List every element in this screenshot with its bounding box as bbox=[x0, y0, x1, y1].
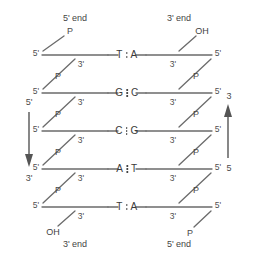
left-phosphate-2: P bbox=[55, 110, 61, 119]
left-phosphate-4: P bbox=[55, 186, 61, 195]
base-pair-5: TA bbox=[116, 202, 137, 212]
base-pair-3-hydrogen-bonds bbox=[126, 126, 128, 136]
base-pair-4-right-base: T bbox=[131, 164, 138, 174]
hydrogen-bond-dot bbox=[126, 92, 128, 94]
hydrogen-bond-dot bbox=[126, 130, 128, 132]
base-pair-3: CG bbox=[115, 126, 139, 136]
right-phosphate-2: P bbox=[193, 110, 199, 119]
hydrogen-bond-dot bbox=[126, 127, 128, 129]
base-pair-5-left-base: T bbox=[116, 202, 123, 212]
right-three-prime-2: 3' bbox=[170, 98, 176, 107]
base-pair-4-hydrogen-bonds bbox=[126, 164, 128, 174]
base-pair-4: AT bbox=[116, 164, 137, 174]
left-five-prime-4: 5' bbox=[33, 163, 39, 172]
left-phosphate-1: P bbox=[55, 72, 61, 81]
right-five-prime-2: 5' bbox=[215, 87, 221, 96]
left-three-prime-5: 3' bbox=[78, 212, 84, 221]
base-pair-4-left-base: A bbox=[116, 164, 123, 174]
right-three-prime-4: 3' bbox=[170, 174, 176, 183]
left-five-prime-3: 5' bbox=[33, 125, 39, 134]
right-arrow-top-label: 3 bbox=[226, 92, 231, 101]
left-five-prime-1: 5' bbox=[33, 49, 39, 58]
base-pair-1-right-base: A bbox=[131, 50, 138, 60]
left-three-prime-1: 3' bbox=[78, 60, 84, 69]
left-three-prime-2: 3' bbox=[78, 98, 84, 107]
end-label-top-left: 5' end bbox=[63, 14, 87, 23]
hydrogen-bond-dot bbox=[126, 165, 128, 167]
left-terminal-p-link bbox=[43, 36, 64, 51]
left-three-prime-4: 3' bbox=[78, 174, 84, 183]
end-label-bottom-right: 5' end bbox=[167, 240, 191, 249]
hydrogen-bond-dot bbox=[126, 52, 128, 54]
base-pair-2-right-base: C bbox=[131, 88, 139, 98]
base-pair-2: GC bbox=[115, 88, 139, 98]
hydrogen-bond-dot bbox=[126, 89, 128, 91]
right-three-prime-1: 3' bbox=[170, 60, 176, 69]
right-arrow-bottom-label: 5 bbox=[226, 164, 231, 173]
right-five-prime-4: 5' bbox=[215, 163, 221, 172]
left-terminal-phosphate: P bbox=[67, 27, 73, 36]
left-arrow-bottom-label: 3' bbox=[26, 174, 33, 183]
hydrogen-bond-dot bbox=[126, 56, 128, 58]
hydrogen-bond-dot bbox=[126, 204, 128, 206]
left-terminal-oh-link bbox=[58, 211, 75, 226]
left-phosphate-3: P bbox=[55, 148, 61, 157]
right-phosphate-1: P bbox=[193, 72, 199, 81]
right-five-prime-5: 5' bbox=[215, 201, 221, 210]
right-five-prime-3: 5' bbox=[215, 125, 221, 134]
left-five-prime-2: 5' bbox=[33, 87, 39, 96]
base-pair-5-hydrogen-bonds bbox=[126, 202, 128, 212]
right-direction-arrow bbox=[224, 104, 232, 158]
left-arrow-top-label: 5' bbox=[26, 98, 33, 107]
hydrogen-bond-dot bbox=[126, 168, 128, 170]
base-pair-2-left-base: G bbox=[115, 88, 123, 98]
left-five-prime-5: 5' bbox=[33, 201, 39, 210]
hydrogen-bond-dot bbox=[126, 171, 128, 173]
end-label-bottom-left: 3' end bbox=[63, 240, 87, 249]
right-phosphate-3: P bbox=[193, 148, 199, 157]
end-label-top-right: 3' end bbox=[167, 14, 191, 23]
right-terminal-p-link bbox=[194, 211, 211, 227]
left-terminal-hydroxyl: OH bbox=[46, 228, 60, 237]
base-pair-3-right-base: G bbox=[131, 126, 139, 136]
base-pair-2-hydrogen-bonds bbox=[126, 88, 128, 98]
hydrogen-bond-dot bbox=[126, 133, 128, 135]
base-pair-5-right-base: A bbox=[131, 202, 138, 212]
right-three-prime-3: 3' bbox=[170, 136, 176, 145]
right-five-prime-1: 5' bbox=[215, 49, 221, 58]
right-terminal-oh-link bbox=[179, 36, 196, 51]
right-terminal-hydroxyl: OH bbox=[195, 27, 209, 36]
hydrogen-bond-dot bbox=[126, 208, 128, 210]
base-pair-1-left-base: T bbox=[116, 50, 123, 60]
hydrogen-bond-dot bbox=[126, 95, 128, 97]
left-three-prime-3: 3' bbox=[78, 136, 84, 145]
right-three-prime-5: 3' bbox=[170, 212, 176, 221]
right-phosphate-4: P bbox=[193, 186, 199, 195]
base-pair-3-left-base: C bbox=[115, 126, 123, 136]
base-pair-1: TA bbox=[116, 50, 137, 60]
left-direction-arrow bbox=[25, 112, 33, 167]
right-terminal-phosphate: P bbox=[187, 229, 193, 238]
base-pair-1-hydrogen-bonds bbox=[126, 50, 128, 60]
dna-antiparallel-diagram: 5' end 3' end 3' end 5' end 5' 3' 3 5 5'… bbox=[0, 0, 254, 259]
